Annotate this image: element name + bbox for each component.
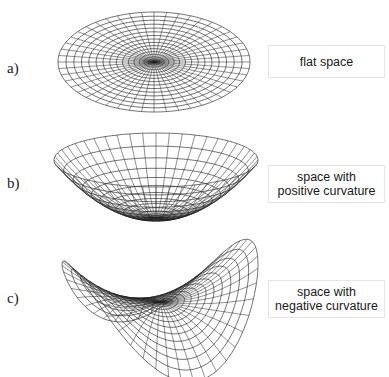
caption-line: space with xyxy=(297,285,356,299)
caption-line: negative curvature xyxy=(275,299,378,313)
saddle-surface-wireframe xyxy=(0,0,389,377)
caption-box-negative-curvature: space with negative curvature xyxy=(268,280,385,318)
